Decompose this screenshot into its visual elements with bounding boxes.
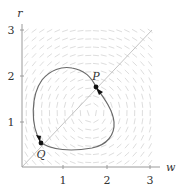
field-dash: [125, 161, 130, 165]
field-dash: [117, 161, 122, 164]
field-dash: [47, 160, 52, 164]
field-dash: [55, 38, 60, 41]
field-dash: [78, 87, 83, 90]
field-dash: [93, 154, 99, 155]
field-dash: [101, 128, 106, 132]
field-dash: [148, 37, 153, 41]
field-dash: [24, 29, 29, 33]
field-dash: [117, 86, 121, 91]
field-dash: [85, 104, 91, 106]
field-dash: [25, 135, 27, 141]
field-dash: [85, 80, 91, 81]
field-dash: [49, 118, 50, 124]
field-dash: [79, 119, 83, 124]
field-dash: [132, 37, 137, 40]
field-dash: [109, 86, 113, 90]
field-dash: [55, 152, 60, 156]
field-dash: [71, 94, 75, 99]
point-p-label: P: [91, 70, 100, 83]
field-dash: [72, 102, 74, 108]
field-dash: [47, 37, 52, 40]
field-dash: [41, 86, 43, 91]
field-dash: [117, 152, 122, 155]
field-dash: [141, 127, 143, 133]
field-dash: [142, 94, 144, 100]
field-dash: [56, 135, 59, 140]
field-dash: [125, 144, 129, 149]
field-dash: [148, 45, 152, 49]
field-dash: [118, 127, 121, 132]
field-dash: [63, 127, 66, 132]
field-dash: [85, 129, 91, 130]
field-dash: [101, 136, 106, 139]
field-dash: [85, 137, 91, 138]
field-dash: [25, 152, 28, 157]
field-dash: [39, 37, 44, 40]
field-dash: [26, 127, 27, 133]
field-dash: [109, 161, 114, 163]
field-dash: [132, 29, 137, 32]
field-dash: [141, 78, 144, 83]
field-dash: [132, 54, 137, 58]
field-dash: [141, 135, 144, 140]
field-dash: [126, 102, 127, 108]
field-dash: [26, 118, 27, 124]
field-dash: [134, 118, 135, 124]
field-dash: [117, 135, 121, 140]
field-dash: [126, 127, 128, 132]
field-dash: [33, 143, 36, 148]
field-dash: [85, 120, 91, 122]
field-dash: [24, 37, 28, 41]
field-dash: [140, 53, 144, 57]
field-dash: [56, 86, 59, 91]
field-dash: [32, 53, 36, 57]
field-dash: [109, 54, 115, 56]
field-dash: [70, 136, 75, 140]
x-tick-label-2: 2: [104, 174, 111, 187]
field-dash: [47, 54, 52, 58]
field-dash: [55, 144, 59, 148]
field-dash: [49, 102, 50, 108]
field-dash: [124, 46, 129, 49]
field-dash: [78, 95, 83, 98]
field-dash: [78, 162, 84, 163]
field-dash: [132, 62, 136, 66]
field-dash: [141, 86, 143, 92]
field-dash: [57, 118, 58, 124]
field-dash: [102, 119, 105, 124]
field-dash: [134, 94, 136, 100]
field-dash: [70, 30, 76, 31]
field-dash: [110, 94, 113, 99]
field-dash: [101, 47, 107, 48]
field-dash: [125, 62, 130, 66]
field-dash: [133, 152, 137, 156]
field-dash: [118, 94, 121, 99]
field-dash: [109, 153, 114, 156]
field-dash: [78, 30, 84, 31]
field-dash: [71, 119, 74, 124]
field-dash: [93, 63, 99, 64]
field-dash: [33, 78, 36, 83]
field-dash: [32, 69, 35, 74]
field-dash: [47, 46, 52, 49]
field-dash: [78, 145, 84, 147]
field-dash: [78, 153, 84, 155]
field-dash: [85, 88, 91, 89]
field-dash: [56, 94, 58, 100]
x-axis-label: w: [166, 161, 176, 174]
field-dash: [118, 118, 120, 124]
field-dash: [47, 152, 51, 156]
field-dash: [62, 161, 67, 164]
field-dash: [24, 53, 28, 58]
field-dash: [126, 94, 128, 100]
point-q: Q: [36, 135, 46, 161]
field-dash: [62, 38, 68, 40]
field-dash: [32, 160, 36, 165]
field-dash: [142, 102, 143, 108]
field-dash: [148, 152, 151, 157]
field-dash: [71, 127, 75, 131]
field-dash: [78, 47, 84, 48]
field-dash: [25, 86, 27, 92]
y-tick-label-2: 2: [8, 70, 15, 83]
field-dash: [25, 143, 28, 148]
